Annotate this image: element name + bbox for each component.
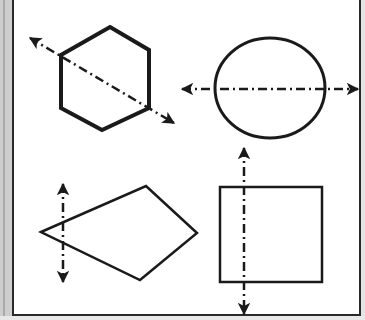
square-figure	[220, 148, 322, 314]
circle-figure	[182, 38, 358, 138]
diagram-canvas	[0, 0, 365, 320]
hexagon-shape	[61, 27, 149, 130]
circle-shape	[215, 38, 325, 138]
hexagon-figure	[30, 27, 174, 130]
kite-shape	[41, 186, 197, 280]
hexagon-symmetry-line	[30, 38, 174, 123]
kite-figure	[41, 184, 197, 282]
square-shape	[220, 187, 322, 282]
